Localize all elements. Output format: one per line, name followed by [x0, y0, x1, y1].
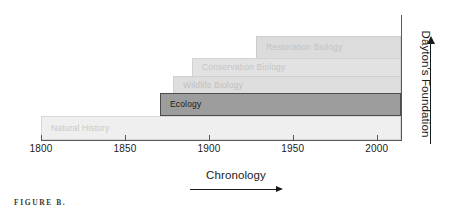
bar-wildlife-biology[interactable]: Wildlife Biology [173, 76, 401, 94]
x-axis-tick-label-1800: 1800 [29, 143, 52, 154]
bar-label-conservation-biology: Conservation Biology [193, 63, 285, 72]
chronology-caption-group: Chronology [181, 169, 291, 194]
bar-natural-history[interactable]: Natural History [41, 116, 401, 140]
y-axis-line [401, 15, 402, 141]
x-axis-tick-1950 [293, 135, 294, 140]
up-arrow-icon [426, 36, 435, 144]
x-axis-tick-2000 [377, 135, 378, 140]
figure-caption: FIGURE B. [14, 198, 66, 207]
x-axis-tick-label-2000: 2000 [365, 143, 388, 154]
bar-label-ecology: Ecology [161, 100, 201, 109]
bar-label-natural-history: Natural History [42, 124, 109, 133]
bar-conservation-biology[interactable]: Conservation Biology [192, 58, 401, 77]
x-axis-tick-1900 [209, 135, 210, 140]
figure-b-container: Restoration Biology Conservation Biology… [0, 0, 459, 219]
x-axis-tick-label-1900: 1900 [197, 143, 220, 154]
x-axis-tick-label-1950: 1950 [281, 143, 304, 154]
x-axis-tick-1850 [125, 135, 126, 140]
right-arrow-icon [181, 186, 291, 194]
dayton-foundation-group: Dayton's Foundation [408, 14, 428, 164]
x-axis-label: Chronology [181, 169, 291, 181]
bar-label-wildlife-biology: Wildlife Biology [174, 81, 243, 90]
x-axis-tick-label-1850: 1850 [113, 143, 136, 154]
x-axis-line [41, 140, 402, 141]
bar-ecology[interactable]: Ecology [160, 93, 401, 116]
x-axis-tick-1800 [41, 135, 42, 140]
bar-restoration-biology[interactable]: Restoration Biology [256, 36, 401, 59]
bar-label-restoration-biology: Restoration Biology [257, 43, 343, 52]
